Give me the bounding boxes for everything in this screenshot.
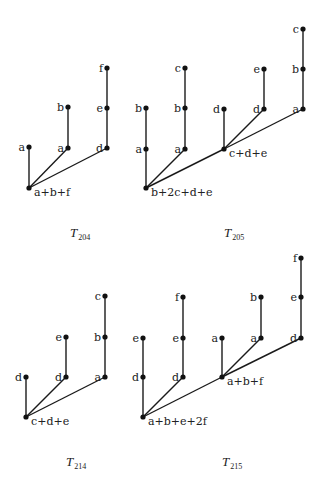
tree-node [140,335,145,340]
tree-node [219,335,224,340]
node-label: c+d+e [229,147,267,160]
tree-caption: T205 [224,225,244,242]
tree-caption: T215 [222,454,242,471]
tree-node [26,185,31,190]
node-label: a+b+f [34,186,71,199]
tree-node [182,105,187,110]
node-label: f [99,62,104,75]
node-label: e [96,102,103,115]
node-label: e [253,63,260,76]
node-label: d [172,371,179,384]
tree-t204: a+b+faabdefT204 [18,62,109,242]
tree-node [219,374,224,379]
node-label: d [253,103,260,116]
node-label: e [132,332,139,345]
tree-node [221,146,226,151]
node-label: b [174,102,181,115]
tree-caption: T214 [66,454,86,471]
tree-node [261,106,266,111]
node-label: a [135,143,142,156]
tree-node [143,146,148,151]
tree-edge [146,149,224,188]
node-label: d [15,371,22,384]
node-label: e [55,331,62,344]
tree-node [180,335,185,340]
node-label: a [174,143,181,156]
node-label: d [55,371,62,384]
node-label: a [18,141,25,154]
tree-node [65,104,70,109]
node-label: b [135,102,142,115]
node-label: a [94,371,101,384]
tree-node [182,146,187,151]
node-label: a+b+e+2f [148,415,208,428]
node-label: b [292,63,299,76]
tree-node [63,374,68,379]
tree-node [65,145,70,150]
tree-edge [224,109,303,149]
node-label: b [57,101,64,114]
tree-node [140,414,145,419]
tree-node [298,255,303,260]
node-label: a [250,332,257,345]
node-label: f [175,291,180,304]
tree-node [102,293,107,298]
tree-node [258,335,263,340]
tree-t215: a+b+e+2fdedefa+b+faabdefT215 [132,252,304,471]
tree-node [23,374,28,379]
tree-node [300,26,305,31]
tree-edge [26,377,105,417]
node-label: a [211,332,218,345]
node-label: c [95,290,101,303]
tree-node [102,334,107,339]
node-label: b+2c+d+e [151,186,212,199]
node-label: c+d+e [31,415,69,428]
node-label: a+b+f [227,375,264,388]
tree-diagrams: a+b+faabdefT204 b+2c+d+eababcc+d+eddeabc… [0,0,319,480]
node-label: b [250,291,257,304]
tree-node [180,374,185,379]
node-label: d [132,371,139,384]
node-label: b [94,331,101,344]
node-label: d [290,332,297,345]
tree-node [300,66,305,71]
node-label: c [175,62,181,75]
tree-t205: b+2c+d+eababcc+d+eddeabcT205 [135,23,306,242]
node-label: a [292,103,299,116]
tree-node [102,374,107,379]
tree-node [300,106,305,111]
tree-node [26,144,31,149]
tree-node [143,185,148,190]
tree-caption: T204 [70,225,90,242]
tree-node [221,106,226,111]
tree-node [298,294,303,299]
node-label: e [172,332,179,345]
tree-node [180,294,185,299]
tree-node [261,66,266,71]
tree-node [140,374,145,379]
node-label: a [57,142,64,155]
tree-node [182,65,187,70]
node-label: d [96,142,103,155]
tree-node [104,105,109,110]
node-label: e [290,291,297,304]
tree-node [104,145,109,150]
tree-node [298,335,303,340]
tree-node [143,105,148,110]
tree-edge [143,377,222,417]
tree-node [104,65,109,70]
node-label: f [293,252,298,265]
node-label: c [293,23,299,36]
tree-node [63,334,68,339]
tree-node [23,414,28,419]
tree-t214: c+d+eddeabcT214 [15,290,108,471]
tree-node [258,294,263,299]
node-label: d [213,103,220,116]
